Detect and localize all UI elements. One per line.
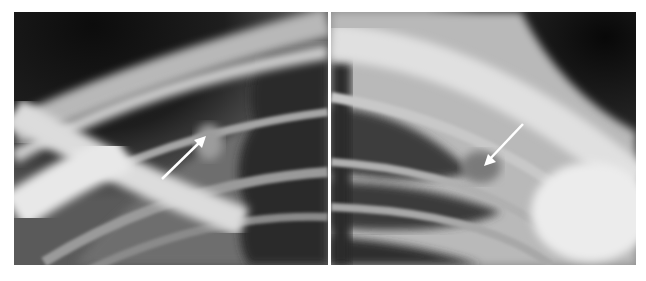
xray-image-right bbox=[331, 12, 636, 265]
xray-image-left bbox=[14, 12, 328, 265]
xray-panel-right bbox=[331, 12, 636, 265]
xray-panel-left bbox=[14, 12, 328, 265]
